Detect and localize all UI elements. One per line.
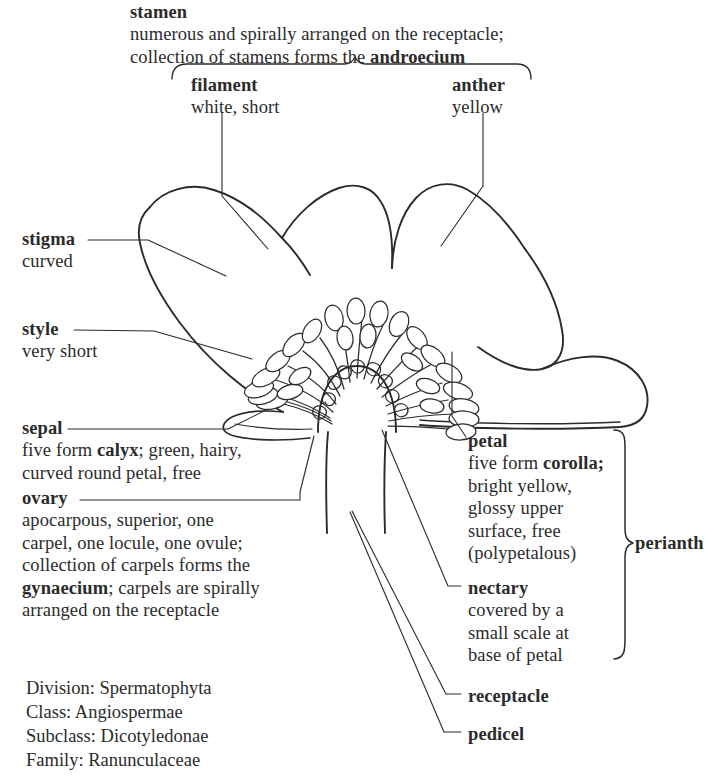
pedicel-right-edge xyxy=(384,432,386,533)
petal-outline-left-lower xyxy=(139,207,283,412)
stamen-desc-line-2: collection of stamens forms the androeci… xyxy=(130,46,710,68)
sepal-label-block: sepal five form calyx; green, hairy, cur… xyxy=(22,417,242,484)
corolla-term: corolla; xyxy=(543,453,604,473)
ovary-line-2: carpel, one locule, one ovule; xyxy=(22,532,260,554)
perianth-label: perianth xyxy=(635,532,704,554)
stigma-term: stigma xyxy=(22,228,75,250)
filament-label-block: filament white, short xyxy=(191,74,280,119)
nectary-label-block: nectary covered by a small scale at base… xyxy=(468,577,569,667)
stamen-label-block: stamen numerous and spirally arranged on… xyxy=(130,1,710,68)
carpel-cluster xyxy=(313,360,408,419)
ovary-line-3: collection of carpels forms the xyxy=(22,554,260,576)
petal-outline-right-lower xyxy=(420,357,648,429)
petal-leader xyxy=(452,352,466,437)
petal-line-5: (polypetalous) xyxy=(468,542,604,564)
filament-leader xyxy=(222,113,268,249)
petal-outline-centre-right xyxy=(392,184,525,268)
style-term: style xyxy=(22,318,98,340)
filament-term: filament xyxy=(191,74,280,96)
petal-outline-centre-left xyxy=(282,186,392,268)
petal-line-3: glossy upper xyxy=(468,497,604,519)
receptacle-leader xyxy=(352,511,461,694)
ovary-line-1: apocarpous, superior, one xyxy=(22,509,260,531)
petal-outline-left xyxy=(150,187,310,275)
androecium-term: androecium xyxy=(370,47,465,67)
botanical-diagram-page: stamen numerous and spirally arranged on… xyxy=(0,0,718,777)
ovary-line-5: arranged on the receptacle xyxy=(22,599,260,621)
stigma-detail: curved xyxy=(22,250,75,272)
anther-label-block: anther yellow xyxy=(452,74,505,119)
stamen-cluster xyxy=(242,298,480,441)
stamen-desc-line-1: numerous and spirally arranged on the re… xyxy=(130,23,710,45)
ovary-label-block: ovary apocarpous, superior, one carpel, … xyxy=(22,487,260,622)
sepal-line-2: curved round petal, free xyxy=(22,462,242,484)
ovary-term: ovary xyxy=(22,487,260,509)
stamen-desc-line-2-text: collection of stamens forms the xyxy=(130,47,370,67)
pedicel-leader xyxy=(350,512,461,732)
taxonomy-class: Class: Angiospermae xyxy=(26,700,212,724)
stamen-term: stamen xyxy=(130,1,710,23)
nectary-leader xyxy=(382,430,461,586)
petal-label-block: petal five form corolla; bright yellow, … xyxy=(468,430,604,565)
anther-heads xyxy=(242,298,480,441)
style-label-block: style very short xyxy=(22,318,98,363)
style-detail: very short xyxy=(22,340,98,362)
anther-term: anther xyxy=(452,74,505,96)
petal-line-2: bright yellow, xyxy=(468,475,604,497)
nectary-line-3: base of petal xyxy=(468,644,569,666)
sepal-term: sepal xyxy=(22,417,242,439)
petal-line-1-prefix: five form xyxy=(468,453,543,473)
ovary-line-4-rest: ; carpels are spirally xyxy=(108,578,260,598)
style-leader xyxy=(74,330,252,359)
anther-leader xyxy=(441,113,483,246)
petal-line-1: five form corolla; xyxy=(468,452,604,474)
taxonomy-block: Division: Spermatophyta Class: Angiosper… xyxy=(26,676,212,772)
perianth-brace xyxy=(614,430,633,659)
nectary-line-2: small scale at xyxy=(468,622,569,644)
petal-line-4: surface, free xyxy=(468,520,604,542)
stigma-label-block: stigma curved xyxy=(22,228,75,273)
gynaecium-term: gynaecium xyxy=(22,578,108,598)
pedicel-label: pedicel xyxy=(468,723,524,745)
pedicel-left-edge xyxy=(326,432,328,533)
taxonomy-subclass: Subclass: Dicotyledonae xyxy=(26,724,212,748)
nectary-term: nectary xyxy=(468,577,569,599)
stigma-leader xyxy=(88,240,226,276)
sepal-line-1-prefix: five form xyxy=(22,440,97,460)
petal-term: petal xyxy=(468,430,604,452)
filament-detail: white, short xyxy=(191,96,280,118)
taxonomy-division: Division: Spermatophyta xyxy=(26,676,212,700)
petal-outline-right xyxy=(478,249,563,370)
petal-outline-right-lower-inner xyxy=(420,420,620,424)
ovary-line-4: gynaecium; carpels are spirally xyxy=(22,577,260,599)
sepal-line-1: five form calyx; green, hairy, xyxy=(22,439,242,461)
nectary-line-1: covered by a xyxy=(468,599,569,621)
anther-detail: yellow xyxy=(452,96,505,118)
taxonomy-family: Family: Ranunculaceae xyxy=(26,748,212,772)
flower-line-art xyxy=(0,0,718,777)
sepal-line-1-suffix: ; green, hairy, xyxy=(139,440,242,460)
receptacle-label: receptacle xyxy=(468,685,549,707)
receptacle-dome xyxy=(318,366,396,432)
sepal-outline-left-inner xyxy=(235,424,312,429)
calyx-term: calyx xyxy=(97,440,139,460)
